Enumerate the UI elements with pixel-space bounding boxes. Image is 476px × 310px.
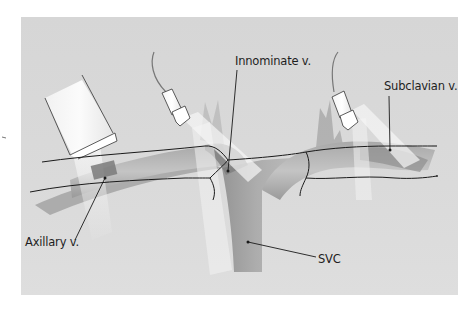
venous-ultrasound-diagram: Innominate v. Subclavian v. Axillary v. …: [0, 0, 476, 310]
svc-label: SVC: [318, 254, 341, 266]
subclavian-vein-label: Subclavian v.: [384, 81, 457, 93]
innominate-vein-label: Innominate v.: [235, 56, 311, 68]
diagram-canvas: [0, 0, 476, 310]
axillary-vein-label: Axillary v.: [25, 237, 79, 249]
